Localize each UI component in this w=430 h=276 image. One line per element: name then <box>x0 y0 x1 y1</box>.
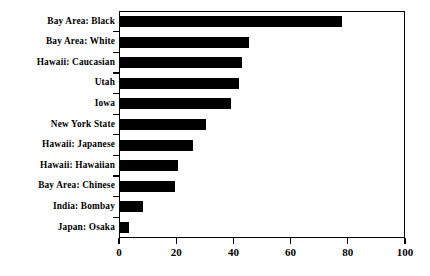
category-label: Japan: Osaka <box>0 222 115 233</box>
category-label: Utah <box>0 77 115 88</box>
bar <box>119 160 178 171</box>
bars-layer <box>119 11 405 238</box>
bar <box>119 16 342 27</box>
bar <box>119 181 175 192</box>
value-tick <box>404 238 405 244</box>
value-tick-label: 60 <box>285 246 296 259</box>
category-label: Hawaii: Hawaiian <box>0 160 115 171</box>
category-label: New York State <box>0 119 115 130</box>
value-tick <box>347 238 348 244</box>
bar <box>119 140 193 151</box>
category-label: India: Bombay <box>0 201 115 212</box>
bar <box>119 37 249 48</box>
category-label: Bay Area: Black <box>0 16 115 27</box>
value-tick-label: 80 <box>342 246 353 259</box>
bar <box>119 119 206 130</box>
value-tick <box>118 238 119 244</box>
bar <box>119 222 129 233</box>
value-tick-label: 100 <box>397 246 414 259</box>
category-label: Bay Area: White <box>0 36 115 47</box>
value-tick <box>176 238 177 244</box>
value-tick <box>290 238 291 244</box>
category-label: Hawaii: Caucasian <box>0 57 115 68</box>
value-tick-label: 40 <box>228 246 239 259</box>
category-axis-labels: Bay Area: BlackBay Area: WhiteHawaii: Ca… <box>0 11 115 238</box>
value-tick-label: 0 <box>116 246 122 259</box>
category-label: Iowa <box>0 98 115 109</box>
bar <box>119 57 242 68</box>
bar <box>119 78 239 89</box>
value-axis-ticks <box>119 238 405 245</box>
bar <box>119 98 231 109</box>
bar-chart: Bay Area: BlackBay Area: WhiteHawaii: Ca… <box>0 0 430 276</box>
category-label: Bay Area: Chinese <box>0 180 115 191</box>
value-axis-tick-labels: 020406080100 <box>119 246 405 262</box>
value-tick-label: 20 <box>171 246 182 259</box>
bar <box>119 201 143 212</box>
category-label: Hawaii: Japanese <box>0 139 115 150</box>
value-tick <box>233 238 234 244</box>
